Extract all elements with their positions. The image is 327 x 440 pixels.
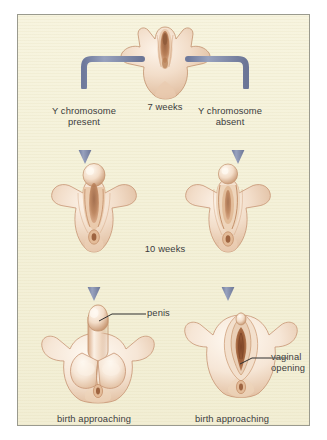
callout-label-vaginal-opening: vaginalopening: [271, 351, 310, 374]
female-condition-line2: absent: [216, 116, 245, 127]
figure-panel: 7 weeks Y chromosomepresent Y chromosome…: [17, 14, 310, 426]
male-branch-condition: Y chromosomepresent: [32, 105, 136, 128]
male-condition-line2: present: [68, 116, 100, 127]
callout-label-penis: penis: [147, 307, 195, 318]
down-arrow-icon-male-2: [87, 267, 101, 303]
elbow-arrow-left-icon: [72, 53, 146, 89]
male-condition-line1: Y chromosome: [52, 105, 116, 116]
vaginal-opening-line2: opening: [271, 362, 305, 373]
embryology-differentiation-figure: 7 weeks Y chromosomepresent Y chromosome…: [0, 0, 327, 440]
female-condition-line1: Y chromosome: [198, 105, 262, 116]
elbow-arrow-right-icon: [184, 53, 258, 89]
caption-male-birth-approaching: birth approaching: [32, 413, 156, 424]
female-branch-condition: Y chromosomeabsent: [178, 105, 282, 128]
caption-10-weeks: 10 weeks: [134, 243, 196, 254]
down-arrow-icon-female-2: [221, 267, 235, 303]
vaginal-opening-line1: vaginal: [271, 351, 301, 362]
leader-line-icon-penis: [98, 311, 148, 323]
caption-female-birth-approaching: birth approaching: [170, 413, 294, 424]
